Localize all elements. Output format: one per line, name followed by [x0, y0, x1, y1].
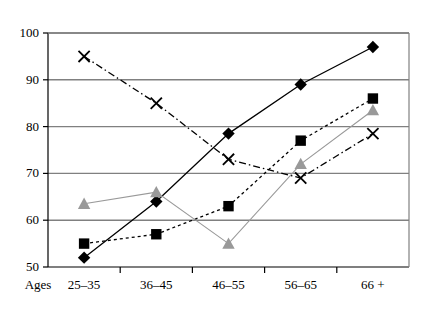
x-series-markers [79, 51, 379, 184]
gridlines-group: 5060708090100 [20, 25, 410, 274]
line-chart: 5060708090100Ages25–3536–4546–5556–6566 … [0, 0, 431, 336]
square-series-line [84, 99, 373, 244]
diamond-series-marker-0 [78, 251, 90, 263]
square-series-marker-3 [296, 135, 306, 145]
triangle-series-marker-1 [150, 186, 162, 197]
x-axis-label-4: 66 + [361, 277, 385, 292]
diamond-series-marker-4 [367, 41, 379, 53]
series-lines-group [84, 47, 373, 258]
y-axis-label-50: 50 [26, 259, 39, 274]
x-axis-label-0: 25–35 [68, 277, 101, 292]
x-axis-labels-group: Ages25–3536–4546–5556–6566 + [25, 277, 385, 292]
square-series-marker-4 [368, 93, 378, 103]
x-axis-label-3: 56–65 [284, 277, 317, 292]
square-series-marker-1 [151, 229, 161, 239]
chart-canvas: 5060708090100Ages25–3536–4546–5556–6566 … [0, 0, 431, 336]
x-series-marker-1 [151, 98, 162, 109]
x-series-marker-3 [295, 172, 306, 183]
diamond-series-line [84, 47, 373, 258]
triangle-series-marker-3 [295, 158, 307, 169]
x-axis-title: Ages [25, 277, 52, 292]
x-series-marker-0 [79, 51, 90, 62]
x-axis-label-1: 36–45 [140, 277, 173, 292]
x-axis-label-2: 46–55 [212, 277, 245, 292]
axes-group [48, 33, 409, 273]
y-axis-label-100: 100 [20, 25, 40, 40]
y-axis-label-60: 60 [26, 212, 39, 227]
square-series-marker-0 [79, 238, 89, 248]
triangle-series-marker-4 [367, 104, 379, 115]
x-series-marker-4 [367, 128, 378, 139]
diamond-series-markers [78, 41, 379, 264]
x-series-marker-2 [223, 154, 234, 165]
y-axis-label-70: 70 [26, 165, 39, 180]
y-axis-label-90: 90 [26, 72, 39, 87]
y-axis-label-80: 80 [26, 119, 39, 134]
square-series-marker-2 [223, 201, 233, 211]
square-series-markers [79, 93, 378, 248]
